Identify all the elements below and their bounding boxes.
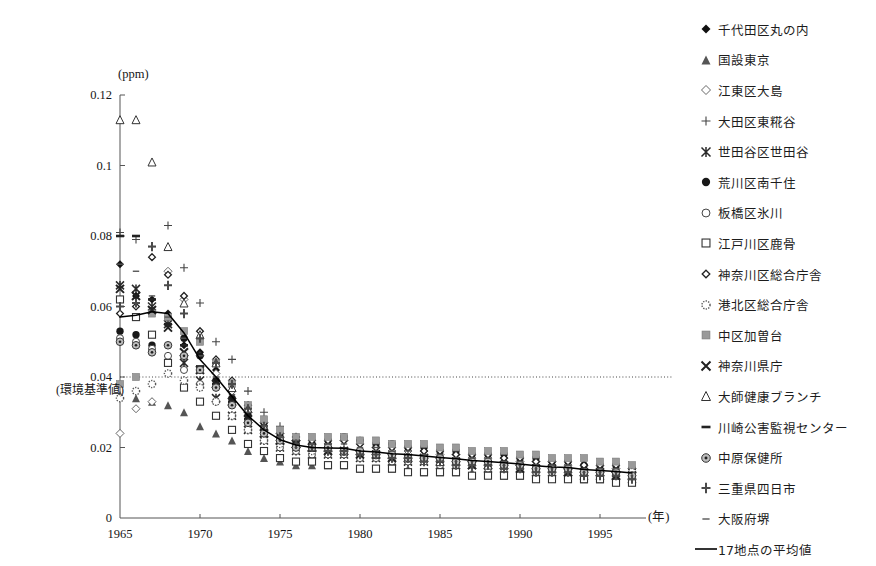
y-tick-label: 0.02 bbox=[50, 442, 112, 455]
y-tick-label: 0.04 bbox=[50, 371, 112, 384]
bold-x-icon bbox=[694, 357, 718, 375]
legend-item[interactable]: 江戸川区鹿骨 bbox=[694, 228, 876, 259]
open-triangle-icon bbox=[694, 387, 718, 405]
data-points-layer bbox=[116, 116, 636, 487]
legend-item[interactable]: 千代田区丸の内 bbox=[694, 14, 876, 45]
legend-item[interactable]: 板橋区氷川 bbox=[694, 198, 876, 229]
legend-item[interactable]: 川崎公害監視センター bbox=[694, 412, 876, 443]
y-tick-label: 0.1 bbox=[50, 160, 112, 173]
bullseye-icon bbox=[694, 449, 718, 467]
legend-item-label: 大師健康ブランチ bbox=[718, 387, 822, 406]
chart-container: (ppm) (環境基準値) (年) 00.020.040.060.080.10.… bbox=[0, 0, 876, 566]
legend-item-label: 江東区大島 bbox=[718, 81, 783, 100]
legend-item-label: 大田区東糀谷 bbox=[718, 112, 796, 131]
legend-item[interactable]: 神奈川県庁 bbox=[694, 351, 876, 382]
y-axis-unit-label: (ppm) bbox=[118, 68, 149, 81]
x-tick-label: 1965 bbox=[90, 528, 150, 541]
legend-item-label: 荒川区南千住 bbox=[718, 173, 796, 192]
filled-circle-icon bbox=[694, 173, 718, 191]
x-tick-label: 1980 bbox=[330, 528, 390, 541]
star-x-icon bbox=[694, 143, 718, 161]
legend-item[interactable]: 大師健康ブランチ bbox=[694, 381, 876, 412]
dash-thick-icon bbox=[694, 418, 718, 436]
legend-item[interactable]: 大阪府堺 bbox=[694, 504, 876, 535]
environmental-standard-label: (環境基準値) bbox=[56, 384, 124, 396]
x-axis-unit-label: (年) bbox=[648, 511, 669, 524]
open-circle-icon bbox=[694, 204, 718, 222]
filled-triangle-icon bbox=[694, 51, 718, 69]
legend-item-label: 大阪府堺 bbox=[718, 509, 770, 528]
legend-item-label: 千代田区丸の内 bbox=[718, 20, 809, 39]
x-tick-label: 1985 bbox=[410, 528, 470, 541]
legend-item-label: 板橋区氷川 bbox=[718, 203, 783, 222]
open-diamond-icon bbox=[694, 81, 718, 99]
x-tick-label: 1975 bbox=[250, 528, 310, 541]
line-icon bbox=[694, 540, 718, 558]
legend-item-label: 国設東京 bbox=[718, 50, 770, 69]
x-tick-label: 1990 bbox=[490, 528, 550, 541]
plus-icon bbox=[694, 112, 718, 130]
dash-thin-icon bbox=[694, 510, 718, 528]
legend-item[interactable]: 神奈川区総合庁舎 bbox=[694, 259, 876, 290]
legend-item[interactable]: 中原保健所 bbox=[694, 442, 876, 473]
legend-item-label: 中原保健所 bbox=[718, 448, 783, 467]
legend-item[interactable]: 三重県四日市 bbox=[694, 473, 876, 504]
x-tick-label: 1995 bbox=[570, 528, 630, 541]
filled-square-icon bbox=[694, 326, 718, 344]
legend-item-label: 川崎公害監視センター bbox=[718, 418, 848, 437]
x-tick-label: 1970 bbox=[170, 528, 230, 541]
legend-item-label: 神奈川県庁 bbox=[718, 356, 783, 375]
legend-item-label: 中区加曽台 bbox=[718, 326, 783, 345]
legend-item[interactable]: 17地点の平均値 bbox=[694, 534, 876, 565]
legend-item-label: 港北区総合庁舎 bbox=[718, 295, 809, 314]
legend-item[interactable]: 荒川区南千住 bbox=[694, 167, 876, 198]
y-tick-label: 0 bbox=[50, 512, 112, 525]
legend-item[interactable]: 世田谷区世田谷 bbox=[694, 136, 876, 167]
legend-item[interactable]: 大田区東糀谷 bbox=[694, 106, 876, 137]
legend-item-label: 三重県四日市 bbox=[718, 479, 796, 498]
open-diamond-sm-icon bbox=[694, 265, 718, 283]
legend-item[interactable]: 江東区大島 bbox=[694, 75, 876, 106]
legend-item-label: 神奈川区総合庁舎 bbox=[718, 265, 822, 284]
legend-item-label: 江戸川区鹿骨 bbox=[718, 234, 796, 253]
plus-bold-icon bbox=[694, 479, 718, 497]
chart-legend: 千代田区丸の内国設東京江東区大島大田区東糀谷世田谷区世田谷荒川区南千住板橋区氷川… bbox=[694, 14, 876, 565]
open-square-icon bbox=[694, 234, 718, 252]
y-tick-label: 0.06 bbox=[50, 301, 112, 314]
legend-item[interactable]: 国設東京 bbox=[694, 45, 876, 76]
dotted-circle-icon bbox=[694, 296, 718, 314]
legend-item[interactable]: 中区加曽台 bbox=[694, 320, 876, 351]
legend-item-label: 世田谷区世田谷 bbox=[718, 142, 809, 161]
legend-item[interactable]: 港北区総合庁舎 bbox=[694, 289, 876, 320]
filled-diamond-icon bbox=[694, 20, 718, 38]
y-tick-label: 0.12 bbox=[50, 89, 112, 102]
y-tick-label: 0.08 bbox=[50, 230, 112, 243]
legend-item-label: 17地点の平均値 bbox=[718, 540, 812, 559]
